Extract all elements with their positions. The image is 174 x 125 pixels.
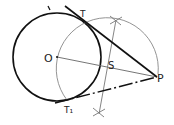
label-T: T bbox=[79, 9, 86, 19]
label-P: P bbox=[157, 72, 164, 85]
cross-mark-bottom bbox=[93, 108, 105, 117]
construction-arc bbox=[56, 18, 158, 100]
tangent-construction-diagram: O T S P T₁ bbox=[0, 0, 174, 125]
tangent-PT1 bbox=[55, 77, 157, 103]
cross-mark-top bbox=[110, 16, 122, 25]
diagram-svg: O T S P T₁ bbox=[0, 0, 174, 125]
tick-mark bbox=[48, 6, 50, 10]
label-S: S bbox=[108, 60, 114, 71]
point-O bbox=[56, 56, 58, 58]
label-T1: T₁ bbox=[63, 105, 73, 115]
line-OP bbox=[57, 57, 157, 77]
label-O: O bbox=[44, 52, 53, 65]
